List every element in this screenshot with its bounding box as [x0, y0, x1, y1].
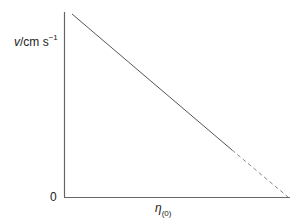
x-axis-variable: η: [155, 201, 162, 215]
y-axis-unit: /cm s: [20, 35, 49, 49]
y-axis-label: v/cm s−1: [14, 34, 58, 49]
x-axis-subscript: (0): [162, 209, 172, 218]
x-axis-label: η(0): [155, 201, 171, 217]
y-origin-tick-label: 0: [50, 190, 57, 204]
solid-line-series: [72, 14, 232, 150]
dashed-extrapolation-series: [232, 150, 288, 197]
y-axis-exponent: −1: [49, 33, 58, 42]
